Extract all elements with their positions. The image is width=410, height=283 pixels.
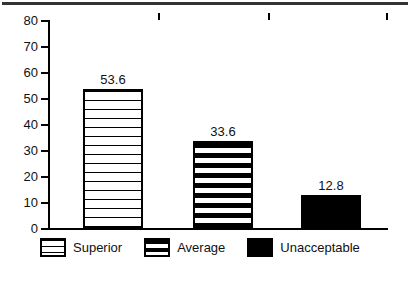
y-axis-line: [48, 20, 50, 230]
legend-label: Average: [177, 241, 225, 254]
legend-swatch-unacceptable-icon: [247, 238, 273, 257]
y-axis-label: 10: [24, 196, 38, 209]
chart-legend: Superior Average Unacceptable: [40, 238, 382, 257]
legend-swatch-average-icon: [144, 238, 170, 257]
y-tick-mark: [41, 20, 48, 22]
y-axis-label: 40: [24, 118, 38, 131]
y-axis-label: 50: [24, 92, 38, 105]
bar-value-label: 53.6: [100, 73, 125, 86]
y-tick-mark: [41, 46, 48, 48]
x-axis-tick: [158, 13, 160, 20]
y-axis-label: 0: [31, 222, 38, 235]
legend-item-unacceptable: Unacceptable: [247, 238, 360, 257]
y-axis-label: 20: [24, 170, 38, 183]
bar-average: 33.6: [193, 141, 253, 228]
y-tick-mark: [41, 228, 48, 230]
plot-area: 80 70 60 50 40 30 20 10: [48, 20, 388, 230]
y-tick-mark: [41, 202, 48, 204]
bar-superior: 53.6: [83, 89, 143, 228]
bar-unacceptable: 12.8: [301, 195, 361, 228]
legend-label: Unacceptable: [280, 241, 360, 254]
y-tick-mark: [41, 98, 48, 100]
x-axis-line: [48, 228, 388, 230]
y-tick-mark: [41, 124, 48, 126]
y-tick-mark: [41, 150, 48, 152]
legend-label: Superior: [73, 241, 122, 254]
bar-value-label: 12.8: [318, 179, 343, 192]
legend-swatch-superior-icon: [40, 238, 66, 257]
chart-figure: 80 70 60 50 40 30 20 10: [0, 0, 410, 283]
y-axis-label: 80: [24, 14, 38, 27]
y-tick-mark: [41, 72, 48, 74]
legend-item-average: Average: [144, 238, 225, 257]
y-axis-label: 70: [24, 40, 38, 53]
y-tick-mark: [41, 176, 48, 178]
x-axis-tick-end: [386, 13, 388, 20]
y-axis-label: 30: [24, 144, 38, 157]
figure-top-rule: [2, 2, 408, 5]
legend-item-superior: Superior: [40, 238, 122, 257]
bar-value-label: 33.6: [210, 125, 235, 138]
x-axis-tick: [268, 13, 270, 20]
y-axis-label: 60: [24, 66, 38, 79]
